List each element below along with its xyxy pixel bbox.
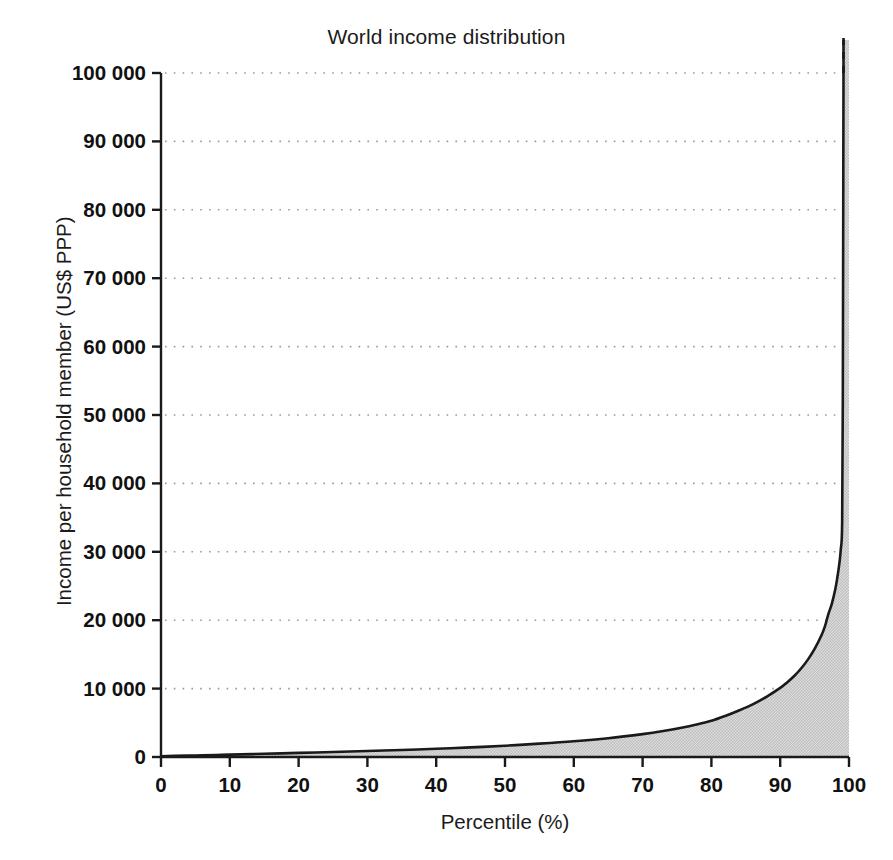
y-tick-label: 100 000 xyxy=(72,63,146,84)
chart-figure: World income distribution Income per hou… xyxy=(0,0,893,860)
y-tick-label: 30 000 xyxy=(83,542,146,563)
y-tick-label: 60 000 xyxy=(83,337,146,358)
axis-ticks-group xyxy=(152,73,849,767)
x-tick-label: 100 xyxy=(809,775,889,796)
y-tick-label: 0 xyxy=(135,747,146,768)
y-tick-label: 80 000 xyxy=(83,200,146,221)
y-tick-label: 10 000 xyxy=(83,679,146,700)
y-tick-label: 20 000 xyxy=(83,610,146,631)
y-tick-label: 90 000 xyxy=(83,131,146,152)
y-tick-label: 40 000 xyxy=(83,473,146,494)
gridlines-group xyxy=(165,73,849,689)
y-tick-label: 70 000 xyxy=(83,268,146,289)
y-tick-label: 50 000 xyxy=(83,405,146,426)
